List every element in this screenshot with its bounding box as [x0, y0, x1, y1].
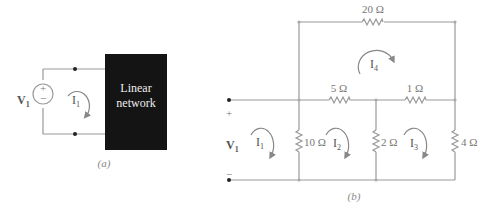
resistor-20 [362, 19, 383, 25]
mesh-current-i3: I3 [410, 136, 418, 152]
figure-b: 20 Ω 5 Ω 1 Ω 10 Ω 2 Ω 4 Ω + − V1 I1 [226, 3, 477, 203]
source-label-b: V1 [226, 138, 239, 154]
mesh-current-i4: I4 [370, 57, 378, 73]
caption-b: (b) [348, 190, 361, 203]
source-label-a: V1 [17, 93, 30, 109]
terminal-node [73, 132, 77, 136]
junction-node [374, 178, 377, 181]
resistor-4-label: 4 Ω [461, 136, 477, 148]
junction-node [297, 20, 300, 23]
resistor-2 [373, 130, 379, 152]
terminal-node [227, 98, 231, 102]
minus-sign-a: − [40, 92, 46, 104]
circuit-figure: + − V1 I1 Linear network (a) 20 Ω 5 Ω 1 … [0, 0, 493, 209]
terminal-node [73, 67, 77, 71]
caption-a: (a) [98, 157, 111, 170]
plus-sign-b: + [226, 107, 232, 119]
network-label-line1: Linear [120, 81, 151, 95]
resistor-10 [296, 130, 302, 152]
junction-node [374, 98, 377, 101]
resistor-4 [452, 130, 458, 152]
minus-sign-b: − [226, 168, 232, 180]
junction-node [453, 20, 456, 23]
resistor-5-label: 5 Ω [331, 82, 347, 94]
resistor-20-label: 20 Ω [362, 3, 384, 15]
network-label-line2: network [116, 96, 155, 110]
junction-node [297, 178, 300, 181]
resistor-5 [329, 97, 350, 103]
junction-node [297, 98, 300, 101]
mesh-current-i2: I2 [333, 136, 341, 152]
resistor-10-label: 10 Ω [304, 136, 326, 148]
wires-top [299, 22, 455, 100]
junction-node [453, 98, 456, 101]
resistor-1 [405, 97, 426, 103]
mesh-current-i1: I1 [256, 135, 264, 151]
resistor-2-label: 2 Ω [381, 136, 397, 148]
figure-a: + − V1 I1 Linear network (a) [17, 54, 167, 170]
resistor-1-label: 1 Ω [407, 82, 423, 94]
current-label-a: I1 [72, 93, 80, 109]
